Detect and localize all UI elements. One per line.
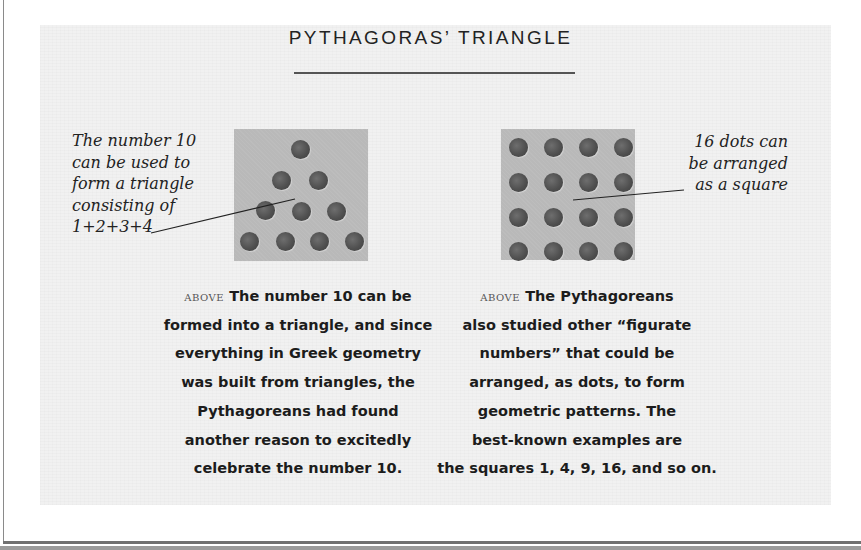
caption-line: Pythagoreans had found: [163, 397, 433, 426]
caption-line: arranged, as dots, to form: [432, 368, 722, 397]
caption-kicker: above: [480, 288, 520, 304]
caption-line: also studied other “figurate: [432, 311, 722, 340]
caption-line: numbers” that could be: [432, 339, 722, 368]
caption-line: the squares 1, 4, 9, 16, and so on.: [432, 454, 722, 483]
caption-kicker: above: [184, 288, 224, 304]
caption-line: was built from triangles, the: [163, 368, 433, 397]
caption-line: above The number 10 can be: [163, 282, 433, 311]
caption-line: above The Pythagoreans: [432, 282, 722, 311]
caption-line: everything in Greek geometry: [163, 339, 433, 368]
leader-line-square: [573, 190, 684, 200]
caption-triangle: above The number 10 can be formed into a…: [163, 282, 433, 483]
caption-line: best-known examples are: [432, 426, 722, 455]
caption-line: formed into a triangle, and since: [163, 311, 433, 340]
caption-line: geometric patterns. The: [432, 397, 722, 426]
leader-line-triangle: [151, 199, 295, 233]
caption-line: another reason to excitedly: [163, 426, 433, 455]
caption-square: above The Pythagoreans also studied othe…: [432, 282, 722, 483]
caption-line: celebrate the number 10.: [163, 454, 433, 483]
